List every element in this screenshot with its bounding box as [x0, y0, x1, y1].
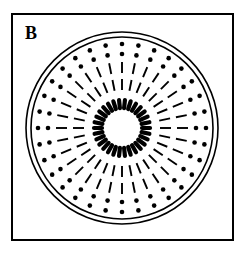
dot-ring-outer-dot	[179, 185, 184, 190]
dot-ring-inner-dot	[105, 53, 110, 58]
dot-ring-outer-dot	[88, 48, 93, 53]
dot-ring-outer-dot	[37, 142, 42, 147]
dot-ring-outer-dot	[88, 203, 93, 208]
dot-ring-outer-dot	[152, 203, 157, 208]
dot-ring-outer-dot	[120, 210, 125, 215]
rosette-diagram: B	[0, 0, 245, 254]
dot-ring-outer-dot	[204, 126, 209, 131]
dot-ring-inner-dot	[67, 178, 72, 183]
dot-ring-inner-dot	[47, 140, 52, 145]
dot-ring-inner-dot	[91, 194, 96, 199]
panel-label: B	[25, 23, 37, 43]
dot-ring-outer-dot	[36, 126, 41, 131]
dot-ring-inner-dot	[105, 198, 110, 203]
inner-dash-ring-segment	[124, 148, 125, 156]
dot-ring-inner-dot	[194, 126, 199, 131]
dot-ring-inner-dot	[91, 57, 96, 62]
dot-ring-inner-dot	[148, 194, 153, 199]
dot-ring-inner-dot	[192, 140, 197, 145]
dot-ring-outer-dot	[103, 43, 108, 48]
dot-ring-outer-dot	[179, 66, 184, 71]
dot-ring-outer-dot	[190, 172, 195, 177]
dot-ring-inner-dot	[67, 73, 72, 78]
dot-ring-outer-dot	[197, 94, 202, 99]
dot-ring-inner-dot	[188, 97, 193, 102]
dot-ring-inner-dot	[172, 178, 177, 183]
dot-ring-outer-dot	[152, 48, 157, 53]
inner-dash-ring-segment	[140, 117, 147, 120]
dot-ring-outer-dot	[166, 56, 171, 61]
inner-dash-ring-segment	[95, 122, 103, 124]
inner-dash-ring-segment	[119, 100, 120, 108]
dot-ring-inner-dot	[181, 167, 186, 172]
dot-ring-inner-dot	[58, 167, 63, 172]
dot-ring-outer-dot	[50, 79, 55, 84]
dot-ring-outer-dot	[197, 158, 202, 163]
inner-dash-ring-segment	[128, 147, 130, 155]
dot-ring-inner-dot	[79, 64, 84, 69]
dot-ring-inner-dot	[47, 111, 52, 116]
dot-ring-outer-dot	[120, 42, 125, 47]
dot-ring-outer-dot	[73, 56, 78, 61]
inner-dash-ring-segment	[142, 132, 150, 134]
dot-ring-inner-dot	[172, 73, 177, 78]
dot-ring-outer-dot	[103, 208, 108, 213]
inner-dash-ring-segment	[142, 122, 150, 124]
dot-ring-inner-dot	[188, 154, 193, 159]
dot-ring-outer-dot	[73, 196, 78, 201]
dot-ring-inner-dot	[148, 57, 153, 62]
inner-dash-ring-segment	[119, 148, 120, 156]
dot-ring-inner-dot	[161, 187, 166, 192]
inner-dash-ring-segment	[96, 136, 103, 139]
figure-panel: B	[0, 0, 245, 254]
dot-ring-outer-dot	[202, 142, 207, 147]
dot-ring-inner-dot	[120, 52, 125, 57]
dot-ring-outer-dot	[60, 66, 65, 71]
dot-ring-inner-dot	[181, 85, 186, 90]
dot-ring-outer-dot	[42, 158, 47, 163]
dot-ring-inner-dot	[161, 64, 166, 69]
dot-ring-inner-dot	[134, 198, 139, 203]
dot-ring-outer-dot	[136, 208, 141, 213]
dot-ring-inner-dot	[46, 126, 51, 131]
dot-ring-outer-dot	[60, 185, 65, 190]
dot-ring-outer-dot	[202, 109, 207, 114]
inner-dash-ring-segment	[124, 100, 125, 108]
dot-ring-outer-dot	[136, 43, 141, 48]
inner-dash-ring-segment	[96, 117, 103, 120]
dot-ring-outer-dot	[37, 109, 42, 114]
dot-ring-inner-dot	[79, 187, 84, 192]
inner-dash-ring-segment	[140, 136, 147, 139]
inner-dash-ring-segment	[95, 132, 103, 134]
dot-ring-outer-dot	[166, 196, 171, 201]
inner-dash-ring-segment	[113, 101, 115, 109]
dot-ring-inner-dot	[192, 111, 197, 116]
dot-ring-inner-dot	[134, 53, 139, 58]
inner-dash-ring-segment	[113, 147, 115, 155]
inner-dash-ring-segment	[128, 101, 130, 109]
dot-ring-inner-dot	[51, 97, 56, 102]
dot-ring-outer-dot	[50, 172, 55, 177]
dot-ring-outer-dot	[190, 79, 195, 84]
dot-ring-inner-dot	[120, 200, 125, 205]
dot-ring-inner-dot	[58, 85, 63, 90]
dot-ring-inner-dot	[51, 154, 56, 159]
dot-ring-outer-dot	[42, 94, 47, 99]
